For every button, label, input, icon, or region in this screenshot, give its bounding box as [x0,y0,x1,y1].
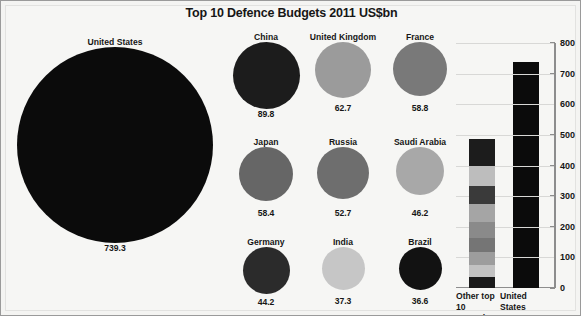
y-tick-label: 100 [560,252,575,262]
bar-chart-panel: 8007006005004003002001000 Other top10 co… [456,29,578,313]
bar-segment [469,222,495,238]
bubble-value: 36.6 [386,296,454,307]
bubble-label: India [309,237,377,247]
bubble-circle-russia [317,147,369,199]
bubble-france: France 58.8 [386,32,454,114]
y-tick-label: 500 [560,130,575,140]
gridline [456,74,554,75]
bubble-circle-india [322,247,365,290]
bubble-value: 58.8 [386,103,454,114]
bubble-label: Germany [232,237,300,247]
bubble-brazil: Brazil 36.6 [386,237,454,307]
bar-segment [469,139,495,167]
bar-segment [469,186,495,204]
gridline-over-bar [513,135,539,136]
bar-segment [469,166,495,185]
bubble-circle-france [393,42,447,96]
y-tick-label: 700 [560,69,575,79]
gridline [456,135,554,136]
bar-united-states[interactable] [513,62,539,288]
bar-caption-line2: 10 countries [456,302,495,316]
chart-title: Top 10 Defence Budgets 2011 US$bn [1,6,581,20]
bar-segment [469,277,495,288]
bubble-value: 62.7 [309,103,377,114]
bar-other-top-10-countries[interactable] [469,139,495,288]
bubble-circle-saudi-arabia [396,147,444,195]
bar-caption-line1: Other top [456,291,495,301]
bar-segment [469,204,495,222]
bubble-russia: Russia 52.7 [309,137,377,219]
bar-caption-line1: United [500,291,527,301]
bubble-label: United States [15,37,215,47]
y-tick-label: 200 [560,222,575,232]
gridline [456,104,554,105]
bubble-label: Russia [309,137,377,147]
gridline-over-bar [513,166,539,167]
bubble-label: France [386,32,454,42]
y-tick [550,287,555,288]
y-tick-label: 400 [560,161,575,171]
bubble-label: Brazil [386,237,454,247]
bubble-label: China [232,32,300,42]
bar-caption: Other top10 countries [456,291,506,316]
bubble-united-states: United States 739.3 [15,37,215,254]
bubble-value: 739.3 [15,243,215,254]
gridline [456,43,554,44]
gridline-over-bar [513,257,539,258]
bubble-china: China 89.8 [232,32,300,120]
bubble-label: United Kingdom [309,32,377,42]
bubble-circle-china [233,42,300,109]
bar-segment [469,265,495,276]
bubble-value: 37.3 [309,296,377,307]
bubble-japan: Japan 58.4 [232,137,300,219]
bubble-circle-united-states [17,47,213,243]
bubble-circle-germany [243,247,290,294]
bubble-value: 44.2 [232,297,300,308]
bubble-germany: Germany 44.2 [232,237,300,308]
gridline-over-bar [513,74,539,75]
bubble-india: India 37.3 [309,237,377,307]
y-tick-label: 300 [560,191,575,201]
bar-caption: UnitedStates [500,291,550,313]
gridline-over-bar [513,104,539,105]
y-tick-label: 800 [560,38,575,48]
bubble-circle-japan [239,147,293,201]
bar-caption-line2: States [500,302,526,312]
bubble-circle-brazil [399,247,442,290]
bubble-value: 46.2 [386,208,454,219]
bar-segment [469,252,495,266]
bubble-united-kingdom: United Kingdom 62.7 [309,32,377,114]
y-tick-label: 600 [560,99,575,109]
gridline-over-bar [513,196,539,197]
bubble-value: 89.8 [232,109,300,120]
bubble-value: 58.4 [232,208,300,219]
bar-segment [513,62,539,288]
bubble-label: Japan [232,137,300,147]
bar-segment [469,238,495,252]
defence-budgets-infographic: Top 10 Defence Budgets 2011 US$bn United… [0,0,581,316]
y-tick-label: 0 [560,283,565,293]
bubble-label: Saudi Arabia [386,137,454,147]
bubble-saudi-arabia: Saudi Arabia 46.2 [386,137,454,219]
bubble-value: 52.7 [309,208,377,219]
gridline-over-bar [513,227,539,228]
bubble-circle-united-kingdom [315,42,371,98]
